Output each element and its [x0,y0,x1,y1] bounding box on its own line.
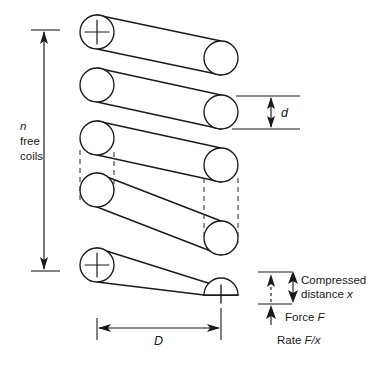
rate-label-prefix: Rate [277,334,305,346]
free-coils-label-coils: coils [20,150,43,162]
coil-4-left-circle [80,173,114,207]
coil-4-wire-body [97,173,221,255]
coil-4-right-circle [204,221,238,255]
compressed-left-arrow-up [267,274,275,287]
coil-1-right-circle [204,41,238,75]
spring-coil-group [80,15,238,303]
force-label: Force F [285,311,326,323]
spring-coil-5 [80,248,238,303]
force-label-var: F [318,311,326,323]
spring-diagram-canvas: n free coils d D [0,0,375,365]
spring-coil-4 [80,173,238,255]
wire-diameter-label: d [281,106,289,120]
coil-2-left-circle [80,68,114,102]
mean-diameter-dimension: D [97,308,221,348]
force-label-prefix: Force [285,311,318,323]
compressed-label-line2-var: x [346,288,354,300]
free-coils-label-free: free [20,135,40,147]
spring-diagram-figure: n free coils d D [0,0,375,365]
coil-3-left-circle [80,121,114,155]
compressed-label-line1: Compressed [301,274,366,286]
rate-label: Rate F/x [277,334,322,346]
rate-label-var: F/x [305,334,322,346]
mean-diameter-label: D [154,334,163,348]
free-coils-dimension: n free coils [20,30,60,271]
coil-2-right-circle [204,95,238,129]
wire-diameter-dimension: d [232,96,300,129]
compressed-label-line2: distance x [301,288,354,300]
spring-coil-2 [80,68,238,129]
compressed-label-line2-prefix: distance [301,288,347,300]
coil-2-wire-body [97,68,221,129]
coil-1-wire-body [97,15,221,75]
spring-coil-3 [80,121,238,182]
free-coils-label-n: n [20,120,26,132]
coil-3-right-circle [204,148,238,182]
spring-coil-1 [80,15,238,75]
compression-annotation-group: Compressed distance x Force F Rate F/x [258,271,366,346]
coil-3-wire-body [97,121,221,182]
